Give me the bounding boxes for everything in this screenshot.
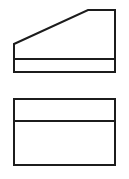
front-view-outline [14,99,115,165]
drawing-canvas [0,0,129,179]
top-view-outline [14,10,115,72]
technical-drawing [0,0,129,179]
